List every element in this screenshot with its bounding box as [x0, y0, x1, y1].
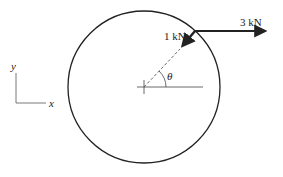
- radius-dashed-line: [144, 49, 180, 87]
- force-diagram: θ 3 kN 1 kN y x: [0, 0, 283, 177]
- angle-arc: [159, 71, 166, 87]
- force-label-3kN: 3 kN: [240, 16, 262, 28]
- y-axis-label: y: [10, 60, 16, 72]
- x-axis-label: x: [48, 97, 54, 109]
- angle-label: θ: [167, 70, 173, 82]
- force-label-1kN: 1 kN: [164, 30, 186, 42]
